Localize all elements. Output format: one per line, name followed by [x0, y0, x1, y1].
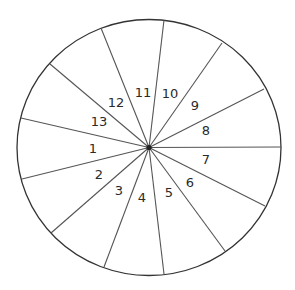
spinner-svg: 12345678910111213: [0, 0, 295, 290]
sector-divider-line: [51, 148, 149, 234]
sector-label-12: 12: [108, 95, 125, 110]
sector-divider-line: [22, 148, 149, 180]
sector-label-3: 3: [115, 183, 123, 198]
sector-divider-line: [149, 148, 164, 275]
sector-label-13: 13: [91, 114, 108, 129]
sector-label-8: 8: [202, 123, 210, 138]
wheel-center-hub: [146, 145, 151, 150]
sector-label-7: 7: [202, 152, 210, 167]
sector-label-2: 2: [95, 167, 103, 182]
sector-divider-line: [21, 118, 149, 148]
sector-label-5: 5: [165, 185, 173, 200]
spinner-diagram: 12345678910111213: [0, 0, 295, 290]
sector-divider-line: [104, 148, 149, 268]
sector-divider-line: [149, 148, 225, 252]
sector-label-1: 1: [89, 141, 97, 156]
sector-label-4: 4: [138, 190, 146, 205]
sector-label-11: 11: [135, 85, 152, 100]
sector-divider-line: [50, 64, 149, 148]
sector-label-6: 6: [186, 175, 194, 190]
sector-divider-line: [149, 147, 281, 148]
sector-label-9: 9: [191, 98, 199, 113]
sector-label-10: 10: [162, 86, 179, 101]
